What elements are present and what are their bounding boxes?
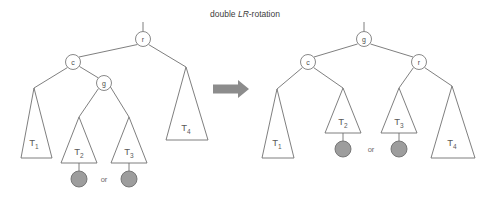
after-tree: T1 T2 T3 T4 or g c r: [262, 22, 475, 158]
title-italic-LR: LR: [238, 9, 249, 19]
before-edge-c-T1: [34, 68, 68, 89]
title-suffix: -rotation: [249, 9, 280, 19]
after-edge-r-T4: [425, 68, 453, 87]
before-edge-r-T4: [149, 45, 187, 68]
before-label-T4: T4: [181, 122, 191, 135]
before-edge-g-T3: [111, 87, 130, 117]
before-edge-r-c: [79, 45, 138, 58]
before-label-T3: T3: [124, 146, 134, 159]
after-edge-g-c: [314, 44, 358, 57]
after-or-label: or: [368, 145, 375, 154]
after-edge-c-T1: [277, 68, 303, 90]
before-node-label-g: g: [102, 80, 106, 88]
after-node-label-g: g: [362, 36, 366, 44]
after-leaf-node-T2: [335, 141, 351, 157]
after-node-label-c: c: [306, 59, 310, 66]
diagram-title: double LR-rotation: [210, 9, 280, 19]
before-edge-c-g: [80, 67, 99, 79]
before-tree: T1 T2 T3 T4 or r c g: [21, 22, 208, 187]
after-label-T4: T4: [447, 137, 457, 150]
before-leaf-node-T3: [121, 171, 137, 187]
after-label-T3: T3: [394, 116, 404, 129]
before-or-label: or: [101, 175, 108, 184]
after-edge-c-T2: [314, 68, 344, 89]
after-edge-g-r: [371, 44, 414, 57]
diagram-canvas: double LR-rotation T1 T2 T3 T4: [0, 0, 491, 202]
before-leaf-node-T2: [71, 171, 87, 187]
before-node-label-c: c: [71, 59, 75, 66]
transform-arrow-icon: [213, 80, 249, 98]
before-label-T1: T1: [29, 137, 39, 150]
rotation-diagram: double LR-rotation T1 T2 T3 T4: [0, 0, 491, 202]
after-label-T1: T1: [272, 137, 282, 150]
before-edge-g-T2: [79, 89, 99, 118]
before-label-T2: T2: [74, 146, 84, 159]
title-prefix: double: [210, 9, 238, 19]
after-leaf-node-T3: [391, 141, 407, 157]
after-edge-r-T3: [399, 68, 414, 89]
after-label-T2: T2: [338, 116, 348, 129]
